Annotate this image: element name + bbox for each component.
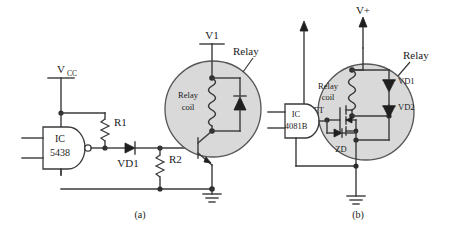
vplus-supply-node: [359, 17, 367, 64]
source-vd2-junction-dot-b: [353, 137, 358, 142]
vd1-label-b: VD1: [398, 76, 415, 86]
ic-4081b-supply-feeder: [300, 21, 308, 110]
caption-a: (a): [134, 209, 145, 221]
circuit-schematic: V CC R1 IC: [0, 0, 458, 234]
resistor-r2: [156, 148, 164, 189]
r2-label: R2: [169, 153, 182, 165]
ground-symbol-b: [347, 196, 365, 204]
panel-b: V+ Relay Relay coil: [268, 4, 429, 221]
ic-return-junction-dot-b: [353, 163, 358, 168]
vplus-label: V+: [356, 4, 370, 16]
relay-label-b: Relay: [403, 49, 429, 61]
panel-a: V CC R1 IC: [22, 29, 261, 221]
vd1-triangle: [125, 143, 135, 153]
ic-supply-feeder-arrowhead: [300, 21, 308, 31]
r2-zigzag: [156, 155, 164, 177]
v1-label: V1: [205, 29, 218, 41]
relay-label-a: Relay: [233, 45, 259, 57]
caption-b: (b): [352, 209, 364, 221]
relay-leader-line-b: [398, 62, 410, 76]
relay-coil-label-a-line2: coil: [182, 102, 195, 112]
transistor-emitter-arrow-a: [204, 157, 211, 163]
resistor-r1: [101, 119, 109, 148]
ic-5438-label-line1: IC: [55, 133, 65, 144]
vcc-label-subscript: CC: [67, 69, 77, 78]
vplus-arrowhead: [359, 17, 367, 27]
ic-4081b-label-line2: 4081B: [285, 121, 308, 131]
r1-label: R1: [114, 116, 127, 128]
ic-4081b-label-line1: IC: [292, 109, 301, 119]
relay-coil-label-b-line2: coil: [322, 92, 335, 102]
diode-vd1: [105, 142, 160, 154]
vcc-label: V: [57, 63, 65, 75]
figure-container: V CC R1 IC: [0, 0, 458, 234]
ground-rail-junction-r2-a: [157, 186, 162, 191]
vd1-label: VD1: [117, 157, 138, 169]
relay-leader-line-a: [243, 58, 253, 72]
r1-zigzag: [101, 119, 109, 141]
zd-label-b: ZD: [335, 144, 346, 154]
relay-coil-label-b-line1: Relay: [318, 81, 339, 91]
ic-5438-label-line2: 5438: [50, 147, 70, 158]
vd2-label-b: VD2: [398, 102, 415, 112]
ground-symbol-a: [203, 189, 221, 202]
ic-5438-invert-bubble: [85, 145, 91, 151]
relay-coil-label-a-line1: Relay: [178, 90, 199, 100]
